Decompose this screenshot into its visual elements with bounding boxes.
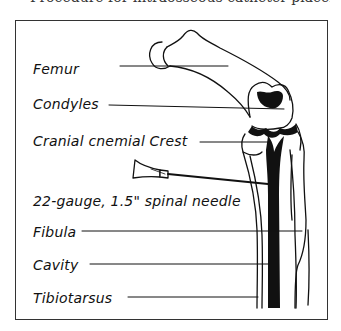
fibula-bone [291,132,309,308]
label-cranial-cnemial-crest: Cranial cnemial Crest [33,133,188,149]
label-condyles: Condyles [33,96,99,112]
condyles-leader [109,105,284,109]
medullary-cavity [266,136,284,308]
label-fibula: Fibula [33,224,76,240]
label-cavity: Cavity [33,257,79,273]
spinal-needle [133,160,268,184]
label-spinal-needle: 22-gauge, 1.5" spinal needle [33,193,241,209]
bone-illustration [0,0,341,331]
label-tibiotarsus: Tibiotarsus [33,290,112,306]
label-femur: Femur [33,61,79,77]
joint-space [248,124,298,138]
